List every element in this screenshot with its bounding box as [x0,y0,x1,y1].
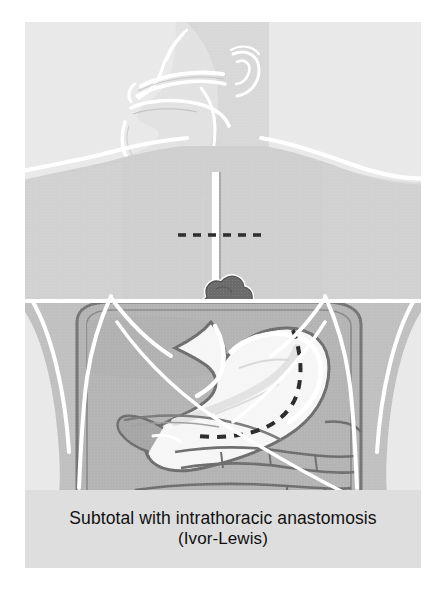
esophagectomy-figure: Subtotal with intrathoracic anastomosis … [0,0,446,590]
caption-line-2: (Ivor-Lewis) [178,529,268,550]
illustration-plate [25,22,421,568]
paper-texture [25,22,421,568]
figure-caption: Subtotal with intrathoracic anastomosis … [25,490,421,568]
anatomy-illustration [25,22,421,568]
caption-line-1: Subtotal with intrathoracic anastomosis [69,508,376,529]
